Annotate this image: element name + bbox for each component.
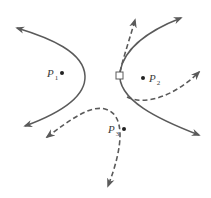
p1-dot [60,71,64,75]
p3-label: P3 [107,123,120,138]
dashed-right-branch-curve [127,72,199,100]
diagram-canvas: P1 P2 P3 [0,0,211,198]
p2-label: P2 [148,72,161,87]
diagram-svg: P1 P2 P3 [0,0,211,198]
p2-dot [141,76,145,80]
square-marker [116,72,123,79]
p1-label: P1 [46,67,59,82]
p3-dot [122,127,126,131]
right-parabola-curve [120,18,199,135]
dashed-p3-curve [47,108,120,186]
dashed-upward-branch-curve [120,20,135,72]
